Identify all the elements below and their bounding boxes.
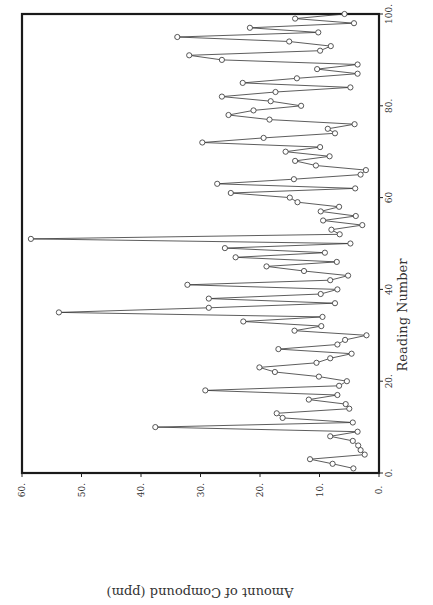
data-point-marker (327, 154, 332, 159)
amount-tick-label: 40. (136, 483, 146, 497)
data-point-marker (291, 177, 296, 182)
data-point-marker (344, 379, 349, 384)
data-point-marker (272, 369, 277, 374)
data-point-marker (301, 268, 306, 273)
data-point-marker (264, 264, 269, 269)
data-point-marker (295, 200, 300, 205)
data-point-marker (352, 122, 357, 127)
data-point-marker (355, 62, 360, 67)
data-point-marker (267, 117, 272, 122)
data-point-marker (349, 351, 354, 356)
data-point-marker (343, 337, 348, 342)
data-point-marker (337, 204, 342, 209)
data-point-marker (332, 131, 337, 136)
data-point-marker (247, 25, 252, 30)
data-point-marker (362, 452, 367, 457)
data-point-marker (355, 429, 360, 434)
data-point-marker (226, 112, 231, 117)
data-point-marker (318, 209, 323, 214)
reading-tick-label: 0. (384, 469, 394, 478)
amount-tick-label: 10. (315, 483, 325, 497)
data-point-marker (337, 383, 342, 388)
reading-tick-label: 20. (384, 374, 394, 388)
amount-tick-label: 30. (196, 483, 206, 497)
data-point-marker (358, 172, 363, 177)
data-point-marker (185, 282, 190, 287)
data-point-marker (348, 85, 353, 90)
data-point-marker (350, 438, 355, 443)
data-point-marker (355, 71, 360, 76)
data-point-marker (316, 374, 321, 379)
reading-tick-label: 40 (384, 283, 394, 295)
data-point-marker (328, 278, 333, 283)
reading-axis-ticks: 0.20.406080.100. (379, 4, 394, 477)
data-point-marker (240, 80, 245, 85)
data-point-marker (318, 145, 323, 150)
reading-tick-label: 60 (384, 192, 394, 204)
data-point-marker (261, 135, 266, 140)
data-point-marker (318, 48, 323, 53)
data-point-marker (351, 21, 356, 26)
data-point-marker (200, 140, 205, 145)
data-point-marker (314, 360, 319, 365)
data-point-marker (56, 310, 61, 315)
data-point-marker (287, 195, 292, 200)
data-point-marker (187, 53, 192, 58)
data-point-marker (315, 67, 320, 72)
data-point-marker (283, 149, 288, 154)
data-point-marker (319, 324, 324, 329)
data-point-marker (280, 415, 285, 420)
data-point-marker (353, 186, 358, 191)
data-point-marker (215, 181, 220, 186)
data-point-marker (299, 103, 304, 108)
data-point-marker (343, 402, 348, 407)
data-point-marker (342, 11, 347, 16)
data-point-marker (241, 319, 246, 324)
data-point-marker (356, 443, 361, 448)
data-point-marker (325, 126, 330, 131)
amount-tick-label: 60. (17, 483, 27, 497)
data-point-marker (348, 241, 353, 246)
data-point-marker (335, 342, 340, 347)
data-series-line (31, 14, 367, 468)
data-point-marker (293, 158, 298, 163)
data-point-marker (219, 94, 224, 99)
data-point-marker (328, 356, 333, 361)
amount-axis-label: Amount of Compound (ppm) (107, 585, 295, 600)
data-point-marker (351, 466, 356, 471)
data-point-marker (332, 301, 337, 306)
rotated-line-chart: 0.10.20.30.40.50.60. 0.20.406080.100. Am… (0, 0, 433, 605)
data-point-marker (329, 227, 334, 232)
data-point-marker (153, 425, 158, 430)
data-point-marker (293, 16, 298, 21)
data-point-marker (307, 457, 312, 462)
data-point-marker (347, 406, 352, 411)
reading-axis-label: Reading Number (395, 258, 410, 372)
data-point-marker (292, 328, 297, 333)
amount-tick-label: 20. (255, 483, 265, 497)
amount-axis-ticks: 0.10.20.30.40.50.60. (17, 473, 384, 497)
data-point-marker (268, 99, 273, 104)
data-point-marker (320, 314, 325, 319)
data-point-marker (222, 246, 227, 251)
data-point-marker (287, 39, 292, 44)
data-point-marker (322, 250, 327, 255)
data-point-marker (219, 57, 224, 62)
reading-tick-label: 80. (384, 99, 394, 113)
amount-tick-label: 0. (374, 486, 384, 495)
data-point-marker (337, 232, 342, 237)
data-point-marker (306, 397, 311, 402)
data-point-marker (328, 434, 333, 439)
data-point-marker (228, 190, 233, 195)
data-point-marker (318, 291, 323, 296)
data-point-marker (274, 411, 279, 416)
data-point-marker (251, 108, 256, 113)
data-point-marker (28, 236, 33, 241)
data-point-marker (175, 34, 180, 39)
data-point-marker (233, 255, 238, 260)
data-point-marker (321, 218, 326, 223)
data-point-marker (328, 44, 333, 49)
data-point-marker (350, 420, 355, 425)
data-point-marker (346, 273, 351, 278)
data-point-marker (313, 163, 318, 168)
